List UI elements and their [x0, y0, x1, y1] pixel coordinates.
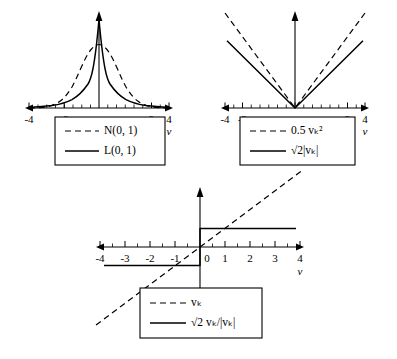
legend-derivative: vₖ √2 vₖ/|vₖ|	[140, 288, 262, 338]
chart-penalty-canvas: -4 -3 3 4 v 0.5 vₖ² √2|vₖ|	[198, 0, 397, 178]
x-tick-label: 4	[166, 113, 172, 125]
x-tick-label: 2	[247, 252, 253, 264]
x-axis-label: v	[363, 125, 368, 137]
legend-label-absolute: √2|vₖ|	[291, 144, 318, 157]
x-tick-label: 4	[362, 113, 368, 125]
x-tick-label: -4	[95, 252, 105, 264]
x-axis-label: v	[298, 265, 303, 277]
y-axis-arrow	[197, 187, 204, 197]
x-axis-label: v	[167, 125, 172, 137]
x-tick-label: 1	[222, 252, 228, 264]
x-tick-label: -4	[220, 113, 230, 125]
chart-normal-laplace: -4 -2 3 4 v N(0, 1) L(0, 1)	[0, 0, 198, 178]
chart-normal-laplace-canvas: -4 -2 3 4 v N(0, 1) L(0, 1)	[0, 0, 198, 178]
legend-label-laplace: L(0, 1)	[104, 144, 136, 157]
legend-penalty: 0.5 vₖ² √2|vₖ|	[240, 117, 355, 165]
x-tick-label: -3	[120, 252, 130, 264]
legend-label-identity: vₖ	[191, 296, 202, 308]
chart-derivative-canvas: -4 -3 -2 -1 0 1 2 3 4 v vₖ √2 vₖ/|vₖ|	[60, 178, 341, 359]
legend-label-quadratic: 0.5 vₖ²	[291, 124, 323, 136]
x-tick-label: -1	[170, 252, 179, 264]
legend-normal-laplace: N(0, 1) L(0, 1)	[55, 117, 165, 165]
chart-penalty-functions: -4 -3 3 4 v 0.5 vₖ² √2|vₖ|	[198, 0, 397, 178]
chart-derivative-functions: -4 -3 -2 -1 0 1 2 3 4 v vₖ √2 vₖ/|vₖ|	[60, 178, 341, 359]
legend-label-normal: N(0, 1)	[104, 124, 137, 137]
x-tick-label: 3	[272, 252, 278, 264]
y-axis-arrow	[292, 11, 299, 21]
x-tick-label: 4	[297, 252, 303, 264]
x-tick-label: 0	[204, 252, 210, 264]
x-tick-label: -2	[145, 252, 154, 264]
legend-label-sign: √2 vₖ/|vₖ|	[191, 316, 235, 329]
x-tick-label: -4	[24, 113, 34, 125]
